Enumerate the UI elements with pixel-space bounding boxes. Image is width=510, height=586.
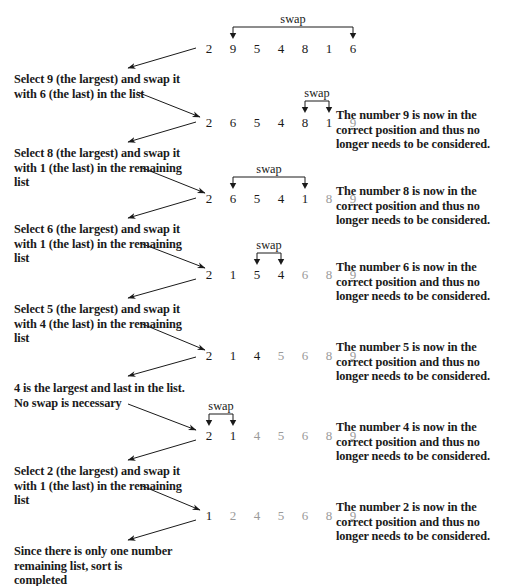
number-cell: 4 [245, 348, 269, 363]
sorted-number-cell: 6 [293, 508, 317, 523]
text-line: Select 6 (the largest) and swap it [14, 222, 244, 237]
number-cell: 1 [317, 41, 341, 56]
text-line: with 1 (the last) in the remaining [14, 479, 244, 494]
sorted-note: The number 2 is now in thecorrect positi… [336, 500, 510, 544]
text-line: remaining list, sort is [14, 559, 244, 574]
step-description: Select 9 (the largest) and swap itwith 6… [14, 72, 244, 101]
text-line: correct position and thus no [336, 123, 510, 138]
number-cell: 2 [197, 41, 221, 56]
sorted-number-cell: 6 [293, 348, 317, 363]
text-line: longer needs to be considered. [336, 369, 510, 384]
swap-label: swap [239, 162, 299, 176]
text-line: Since there is only one number [14, 544, 244, 559]
sorted-number-cell: 2 [221, 508, 245, 523]
sorted-note: The number 5 is now in thecorrect positi… [336, 340, 510, 384]
sorted-number-cell: 5 [269, 348, 293, 363]
step-description: Select 2 (the largest) and swap itwith 1… [14, 464, 244, 508]
number-cell: 1 [221, 348, 245, 363]
text-line: Select 8 (the largest) and swap it [14, 146, 244, 161]
sorted-number-cell: 4 [245, 508, 269, 523]
text-line: longer needs to be considered. [336, 213, 510, 228]
number-cell: 1 [197, 508, 221, 523]
text-line: correct position and thus no [336, 275, 510, 290]
text-line: correct position and thus no [336, 355, 510, 370]
swap-label: swap [287, 86, 347, 100]
number-cell: 4 [269, 267, 293, 282]
sorted-note: The number 9 is now in thecorrect positi… [336, 108, 510, 152]
step-description: Select 8 (the largest) and swap itwith 1… [14, 146, 244, 190]
number-cell: 4 [269, 191, 293, 206]
step-description: Select 6 (the largest) and swap itwith 1… [14, 222, 244, 266]
number-cell: 6 [341, 41, 365, 56]
sorted-number-cell: 6 [293, 267, 317, 282]
sorted-number-cell: 5 [269, 428, 293, 443]
number-cell: 6 [221, 191, 245, 206]
text-line: The number 8 is now in the [336, 184, 510, 199]
swap-bracket [230, 27, 356, 39]
sorted-note: The number 6 is now in thecorrect positi… [336, 260, 510, 304]
text-line: list [14, 175, 244, 190]
selection-sort-diagram: 2954816 2654819 2654189 2154689 2145689 … [0, 0, 510, 586]
text-line: longer needs to be considered. [336, 289, 510, 304]
number-cell: 8 [293, 115, 317, 130]
number-cell: 5 [245, 115, 269, 130]
number-cell: 5 [245, 191, 269, 206]
text-line: with 1 (the last) in the remaining [14, 161, 244, 176]
text-line: list [14, 251, 244, 266]
text-line: The number 2 is now in the [336, 500, 510, 515]
text-line: with 1 (the last) in the remaining [14, 237, 244, 252]
number-cell: 1 [293, 191, 317, 206]
swap-label: swap [239, 238, 299, 252]
text-line: correct position and thus no [336, 199, 510, 214]
text-line: The number 6 is now in the [336, 260, 510, 275]
text-line: longer needs to be considered. [336, 449, 510, 464]
step-description: 4 is the largest and last in the list.No… [14, 381, 244, 410]
text-line: The number 4 is now in the [336, 420, 510, 435]
number-cell: 1 [221, 428, 245, 443]
text-line: Select 9 (the largest) and swap it [14, 72, 244, 87]
swap-bracket [302, 101, 332, 113]
swap-label: swap [263, 12, 323, 26]
sorted-number-cell: 5 [269, 508, 293, 523]
number-cell: 2 [197, 115, 221, 130]
number-cell: 4 [269, 115, 293, 130]
step-description: Since there is only one numberremaining … [14, 544, 244, 586]
text-line: longer needs to be considered. [336, 137, 510, 152]
text-line: with 4 (the last) in the remaining [14, 317, 244, 332]
text-line: with 6 (the last) in the list [14, 87, 244, 102]
text-line: correct position and thus no [336, 515, 510, 530]
number-row: 2954816 [197, 41, 365, 56]
sorted-number-cell: 6 [293, 428, 317, 443]
number-cell: 4 [269, 41, 293, 56]
number-cell: 2 [197, 191, 221, 206]
number-cell: 5 [245, 41, 269, 56]
number-cell: 5 [245, 267, 269, 282]
text-line: Select 2 (the largest) and swap it [14, 464, 244, 479]
number-cell: 1 [221, 267, 245, 282]
number-cell: 8 [293, 41, 317, 56]
swap-bracket [254, 253, 284, 265]
text-line: list [14, 331, 244, 346]
sorted-note: The number 8 is now in thecorrect positi… [336, 184, 510, 228]
step-description: Select 5 (the largest) and swap itwith 4… [14, 302, 244, 346]
text-line: The number 9 is now in the [336, 108, 510, 123]
text-line: correct position and thus no [336, 435, 510, 450]
number-cell: 2 [197, 428, 221, 443]
number-cell: 2 [197, 348, 221, 363]
sorted-note: The number 4 is now in thecorrect positi… [336, 420, 510, 464]
number-cell: 6 [221, 115, 245, 130]
text-line: Select 5 (the largest) and swap it [14, 302, 244, 317]
swap-bracket [206, 414, 236, 426]
sorted-number-cell: 4 [245, 428, 269, 443]
text-line: The number 5 is now in the [336, 340, 510, 355]
number-cell: 9 [221, 41, 245, 56]
text-line: No swap is necessary [14, 396, 244, 411]
text-line: list [14, 493, 244, 508]
text-line: longer needs to be considered. [336, 529, 510, 544]
text-line: 4 is the largest and last in the list. [14, 381, 244, 396]
text-line: completed [14, 573, 244, 586]
number-cell: 2 [197, 267, 221, 282]
